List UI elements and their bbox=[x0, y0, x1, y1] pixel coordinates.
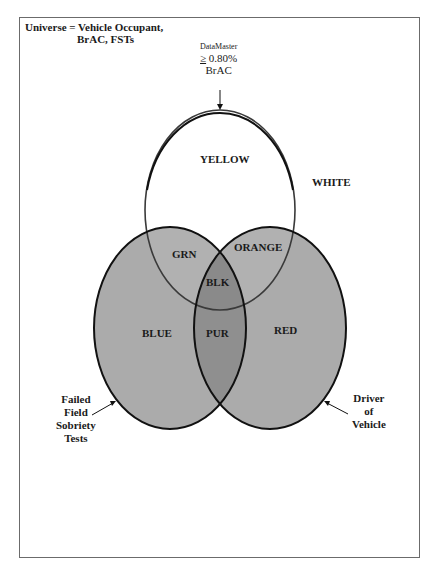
region-blue: BLUE bbox=[142, 327, 172, 340]
datamaster-label: DataMaster ≥ 0.80% BrAC bbox=[200, 42, 237, 76]
datamaster-arrow-icon bbox=[217, 90, 223, 110]
region-green: GRN bbox=[172, 248, 196, 261]
region-red: RED bbox=[274, 324, 297, 337]
region-white: WHITE bbox=[312, 176, 351, 189]
region-black: BLK bbox=[206, 276, 229, 289]
region-orange: ORANGE bbox=[234, 241, 282, 254]
region-yellow: YELLOW bbox=[200, 153, 250, 166]
driver-of-vehicle-label: Driver of Vehicle bbox=[352, 392, 386, 431]
region-purple: PUR bbox=[206, 327, 229, 340]
universe-label: Universe = Vehicle Occupant, BrAC, FSTs bbox=[25, 21, 163, 45]
driver-arrow-icon bbox=[324, 401, 348, 414]
failed-fst-label: Failed Field Sobriety Tests bbox=[56, 393, 96, 445]
